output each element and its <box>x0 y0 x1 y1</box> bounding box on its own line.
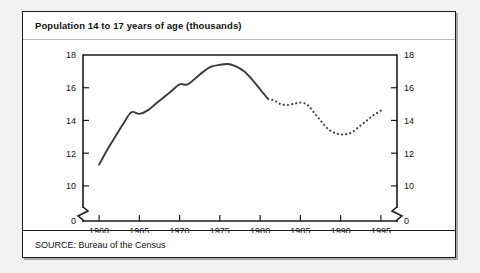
chart-figure: Population 14 to 17 years of age (thousa… <box>22 11 456 258</box>
axis-break-path <box>78 207 88 221</box>
y-tick-label-right: 12 <box>404 149 414 159</box>
series-line-projected <box>272 100 381 134</box>
y-zero-label-left: 0 <box>71 216 76 226</box>
axes-layer <box>78 55 402 221</box>
y-tick-label-left: 14 <box>66 116 76 126</box>
y-tick-label-left: 10 <box>66 181 76 191</box>
axis-break-left <box>78 207 88 221</box>
labels-layer: 1010121214141616181800196019651970197519… <box>66 50 414 233</box>
y-tick-label-right: 14 <box>404 116 414 126</box>
source-note: SOURCE: Bureau of the Census <box>35 240 166 250</box>
y-tick-label-right: 18 <box>404 50 414 60</box>
y-tick-label-left: 16 <box>66 83 76 93</box>
y-zero-label-right: 0 <box>404 216 409 226</box>
line-chart-svg: 1010121214141616181800196019651970197519… <box>23 39 457 233</box>
plot-area: 1010121214141616181800196019651970197519… <box>23 39 457 233</box>
axis-break-right <box>392 207 402 221</box>
series-line-actual <box>99 64 268 165</box>
y-tick-label-right: 16 <box>404 83 414 93</box>
source-divider <box>23 230 455 231</box>
y-tick-label-right: 10 <box>404 181 414 191</box>
series-layer <box>99 64 381 165</box>
chart-title: Population 14 to 17 years of age (thousa… <box>35 20 242 31</box>
y-tick-label-left: 18 <box>66 50 76 60</box>
y-tick-label-left: 12 <box>66 149 76 159</box>
axis-break-path <box>392 207 402 221</box>
